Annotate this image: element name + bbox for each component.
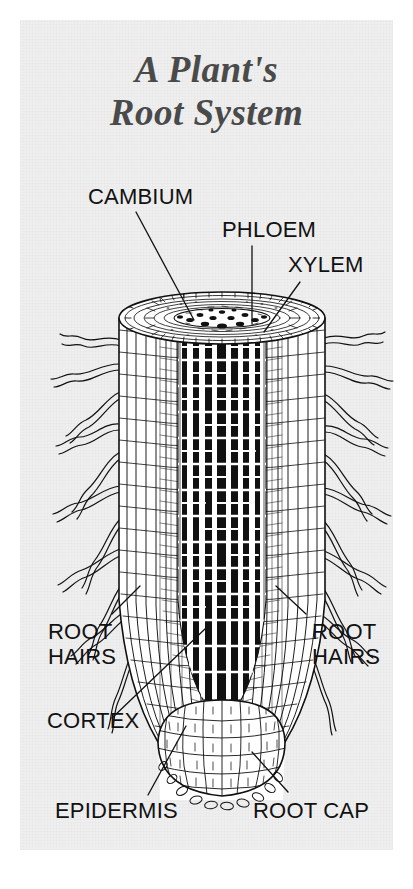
label-root-hairs-left-line-1: ROOT [48, 619, 116, 644]
label-cambium: CAMBIUM [88, 184, 193, 209]
label-xylem: XYLEM [288, 252, 364, 277]
title-line-2: Root System [0, 91, 413, 134]
label-root-hairs-right: ROOT HAIRS [312, 619, 380, 669]
label-root-hairs-right-line-1: ROOT [312, 619, 380, 644]
label-root-hairs-right-line-2: HAIRS [312, 644, 380, 669]
title-line-1: A Plant's [0, 48, 413, 91]
figure-root: A Plant's Root System [0, 0, 413, 889]
page-title: A Plant's Root System [0, 48, 413, 134]
label-phloem: PHLOEM [222, 217, 316, 242]
label-root-hairs-left: ROOT HAIRS [48, 619, 116, 669]
label-root-hairs-left-line-2: HAIRS [48, 644, 116, 669]
label-cortex: CORTEX [47, 708, 139, 733]
label-epidermis: EPIDERMIS [55, 798, 178, 823]
label-root-cap: ROOT CAP [253, 798, 369, 823]
